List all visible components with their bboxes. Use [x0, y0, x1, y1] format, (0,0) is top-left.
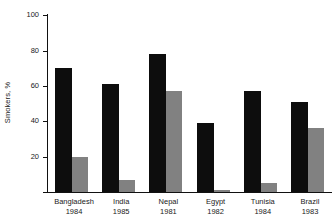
bar-nepal-women — [166, 91, 182, 192]
bar-bangladesh-men — [55, 68, 72, 192]
y-tick-mark-60 — [43, 86, 48, 87]
bar-brazil-men — [291, 102, 308, 192]
bar-brazil-women — [308, 128, 324, 192]
bar-india-women — [119, 180, 135, 192]
y-tick-label-40: 40 — [9, 117, 39, 125]
bar-tunisia-men — [244, 91, 261, 192]
y-tick-mark-80 — [43, 51, 48, 52]
bar-nepal-men — [149, 54, 166, 192]
y-tick-label-20: 20 — [9, 153, 39, 161]
smokers-bar-chart: Smokers, % 100 80 60 40 20 Bangladesh198… — [0, 0, 332, 224]
category-label-brazil: Brazil1983 — [275, 197, 332, 217]
y-tick-label-100: 100 — [9, 11, 39, 19]
bar-egypt-women — [214, 190, 230, 192]
y-axis-line — [47, 14, 48, 193]
bar-bangladesh-women — [72, 157, 88, 192]
y-tick-mark-40 — [43, 121, 48, 122]
bar-tunisia-women — [261, 183, 277, 192]
bar-india-men — [102, 84, 119, 192]
y-tick-mark-100 — [43, 15, 48, 16]
category-name: Brazil — [275, 197, 332, 207]
x-axis-baseline — [43, 192, 332, 193]
y-tick-mark-20 — [43, 157, 48, 158]
y-tick-label-60: 60 — [9, 82, 39, 90]
bar-egypt-men — [197, 123, 214, 192]
category-year: 1983 — [275, 207, 332, 217]
y-tick-label-80: 80 — [9, 47, 39, 55]
